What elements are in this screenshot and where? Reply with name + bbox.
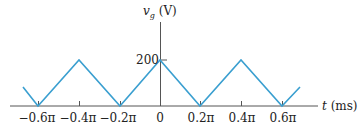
svg-text:−0.6π: −0.6π bbox=[18, 111, 55, 125]
svg-text:−0.4π: −0.4π bbox=[59, 111, 96, 125]
svg-text:−0.2π: −0.2π bbox=[99, 111, 136, 125]
svg-text:0.4π: 0.4π bbox=[229, 111, 256, 125]
voltage-waveform bbox=[23, 60, 300, 106]
y-tick-label: 200 bbox=[136, 53, 159, 67]
triangle-wave-chart: vg (V) 200 t (ms) −0.6π −0.4π −0.2π 0 0.… bbox=[0, 0, 364, 128]
svg-text:0: 0 bbox=[156, 111, 164, 125]
y-axis-label: vg (V) bbox=[143, 4, 177, 20]
x-tick-labels: −0.6π −0.4π −0.2π 0 0.2π 0.4π 0.6π bbox=[18, 111, 296, 125]
svg-text:0.2π: 0.2π bbox=[188, 111, 215, 125]
svg-text:0.6π: 0.6π bbox=[270, 111, 297, 125]
x-axis-label: t (ms) bbox=[322, 99, 358, 113]
